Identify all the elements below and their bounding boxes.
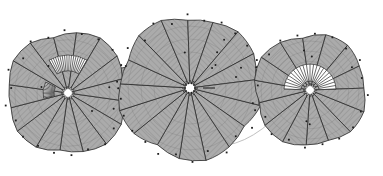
rim-marker — [30, 41, 32, 43]
rim-marker — [203, 20, 205, 22]
cell-dot — [215, 64, 217, 66]
rim-marker — [255, 66, 257, 68]
rim-marker — [5, 105, 7, 107]
cell-dot — [211, 67, 213, 69]
hub-dot — [191, 82, 193, 84]
rim-marker — [71, 154, 73, 156]
rim-marker — [131, 130, 133, 132]
rim-marker — [297, 35, 299, 37]
spiral-sector-diagram — [0, 0, 383, 176]
hub-dot — [193, 84, 195, 86]
cell-dot — [223, 39, 225, 41]
cell-dot — [113, 108, 115, 110]
rim-marker — [235, 135, 237, 137]
rim-marker — [256, 59, 258, 61]
rim-marker — [207, 150, 209, 152]
cell-dot — [240, 67, 242, 69]
cell-dot — [108, 86, 110, 88]
cell-dot — [235, 76, 237, 78]
hub-dot — [188, 82, 190, 84]
rim-marker — [116, 81, 118, 83]
hub-dot — [184, 87, 186, 89]
rim-marker — [360, 111, 362, 113]
rim-marker — [279, 40, 281, 42]
rim-marker — [53, 152, 55, 154]
rim-marker — [81, 33, 83, 35]
rim-marker — [304, 147, 306, 149]
rim-marker — [10, 87, 12, 89]
rim-marker — [288, 139, 290, 141]
rim-marker — [271, 133, 273, 135]
rim-marker — [87, 148, 89, 150]
rim-marker — [221, 22, 223, 24]
hub-dot — [191, 92, 193, 94]
rim-marker — [125, 65, 127, 67]
spiral-discs — [5, 13, 369, 162]
rim-marker — [268, 54, 270, 56]
rim-marker — [314, 33, 316, 35]
rim-marker — [127, 47, 129, 49]
rim-marker — [322, 143, 324, 145]
cell-dot — [184, 51, 186, 53]
rim-marker — [104, 143, 106, 145]
rim-marker — [361, 77, 363, 79]
hub-dot — [194, 87, 196, 89]
rim-marker — [367, 94, 369, 96]
rim-marker — [112, 49, 114, 51]
rim-marker — [98, 38, 100, 40]
hub-dot — [188, 92, 190, 94]
rim-marker — [120, 64, 122, 66]
rim-marker — [352, 127, 354, 129]
rim-marker — [15, 120, 17, 122]
rim-marker — [171, 23, 173, 25]
cell-dot — [40, 86, 42, 88]
rim-marker — [331, 36, 333, 38]
rim-marker — [251, 127, 253, 129]
rim-marker — [47, 37, 49, 39]
disc-disc-left — [5, 29, 131, 156]
rim-marker — [187, 13, 189, 15]
cell-dot — [351, 66, 353, 68]
rim-marker — [345, 48, 347, 50]
hub-dot — [185, 84, 187, 86]
disc-disc-middle — [116, 13, 263, 162]
rim-marker — [8, 69, 10, 71]
cell-dot — [303, 49, 305, 51]
rim-marker — [175, 154, 177, 156]
cell-dot — [216, 51, 218, 53]
cell-dot — [91, 110, 93, 112]
rim-marker — [144, 141, 146, 143]
rim-marker — [22, 136, 24, 138]
rim-marker — [254, 109, 256, 111]
disc-disc-right — [252, 33, 369, 149]
cell-dot — [311, 55, 313, 57]
cell-dot — [117, 87, 119, 89]
rim-marker — [359, 59, 361, 61]
rim-marker — [144, 40, 146, 42]
rim-marker — [123, 115, 125, 117]
cell-dot — [309, 123, 311, 125]
rim-marker — [22, 57, 24, 59]
rim-marker — [157, 153, 159, 155]
rim-marker — [192, 161, 194, 163]
diagram-canvas: Spiral sector diagram — [0, 0, 383, 176]
rim-marker — [152, 23, 154, 25]
rim-marker — [338, 138, 340, 140]
cell-dot — [305, 120, 307, 122]
cell-dot — [47, 65, 49, 67]
hub-dot — [185, 90, 187, 92]
rim-marker — [226, 152, 228, 154]
rim-marker — [120, 98, 122, 100]
rim-marker — [113, 128, 115, 130]
rim-marker — [234, 33, 236, 35]
rim-marker — [64, 29, 66, 31]
rim-marker — [257, 85, 259, 87]
rim-marker — [252, 102, 254, 104]
rim-marker — [264, 116, 266, 118]
hub-dot — [193, 90, 195, 92]
rim-marker — [37, 145, 39, 147]
rim-marker — [246, 45, 248, 47]
